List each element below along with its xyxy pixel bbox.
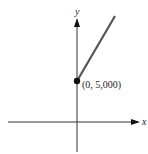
x-axis-arrow-icon xyxy=(131,119,140,125)
y-intercept-point xyxy=(74,78,80,84)
chart: x y (0, 5,000) xyxy=(0,0,148,154)
data-line xyxy=(77,16,115,81)
point-label: (0, 5,000) xyxy=(82,79,121,91)
y-axis-arrow-icon xyxy=(74,18,80,27)
x-axis-label: x xyxy=(141,116,147,127)
y-axis-label: y xyxy=(74,6,80,17)
